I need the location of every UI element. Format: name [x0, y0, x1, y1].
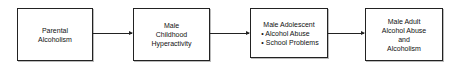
node-label-line: and	[398, 35, 410, 44]
node-parental-alcoholism: Parental Alcoholism	[17, 8, 93, 61]
bullet-item: Alcohol Abuse	[267, 29, 318, 38]
node-male-childhood-hyperactivity: Male Childhood Hyperactivity	[133, 8, 210, 61]
node-label-line: Male Adult	[388, 17, 421, 26]
node-male-adult: Male Adult Alcohol Abuse and Alcoholism	[365, 8, 443, 61]
arrow-3	[328, 33, 364, 34]
arrow-1	[93, 33, 132, 34]
node-label-line: Childhood	[156, 30, 188, 39]
node-label-line: Alcohol Abuse	[382, 26, 426, 35]
node-title: Male Adolescent	[263, 20, 314, 29]
node-label-line: Alcoholism	[387, 44, 421, 53]
bullet-list: Alcohol Abuse School Problems	[259, 29, 318, 47]
arrow-2	[210, 33, 249, 34]
node-label-line: Alcoholism	[38, 35, 72, 44]
node-label-line: Male	[164, 21, 179, 30]
bullet-item: School Problems	[267, 38, 318, 47]
node-label-line: Parental	[42, 26, 68, 35]
node-label-line: Hyperactivity	[151, 39, 191, 48]
node-male-adolescent: Male Adolescent Alcohol Abuse School Pro…	[250, 8, 328, 58]
